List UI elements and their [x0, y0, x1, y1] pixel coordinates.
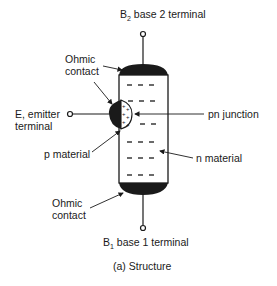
bottom-ohmic-contact: [119, 183, 168, 195]
caption: (a) Structure: [113, 260, 171, 272]
emitter-terminal-dot: [68, 112, 73, 117]
emitter-label: E, emitter terminal: [15, 108, 60, 132]
ohmic-contact-bottom-label: Ohmic contact: [52, 197, 86, 221]
p-material-label: p material: [44, 148, 90, 160]
n-material-bar: [119, 75, 168, 183]
ohmic-contact-top-label: Ohmic contact: [65, 53, 99, 77]
svg-text:+: +: [126, 106, 130, 112]
b2-terminal-dot: [141, 32, 146, 37]
pn-junction-label: pn junction: [208, 108, 259, 120]
svg-text:+: +: [126, 122, 130, 128]
b1-terminal-dot: [141, 226, 146, 231]
top-ohmic-contact: [119, 64, 168, 75]
b2-label: B2 base 2 terminal: [120, 8, 206, 25]
svg-text:+: +: [126, 114, 130, 120]
emitter-ohmic-contact: [109, 100, 121, 129]
n-material-label: n material: [196, 152, 242, 164]
b1-label: B1 base 1 terminal: [103, 236, 189, 253]
